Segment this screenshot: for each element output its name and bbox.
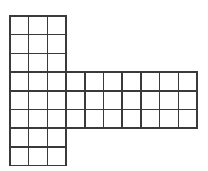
grid-cell bbox=[10, 110, 29, 129]
grid-cell bbox=[10, 147, 29, 166]
grid-cell bbox=[122, 91, 141, 110]
grid-cell bbox=[29, 16, 48, 35]
grid-cell bbox=[85, 91, 104, 110]
grid-cell bbox=[122, 72, 141, 91]
grid-cell bbox=[47, 110, 66, 129]
grid-cell bbox=[66, 110, 85, 129]
grid-cell bbox=[29, 128, 48, 147]
grid-cell bbox=[141, 110, 160, 129]
grid-cell bbox=[47, 147, 66, 166]
grid-cell bbox=[66, 72, 85, 91]
grid-cell bbox=[10, 72, 29, 91]
grid-cell bbox=[10, 35, 29, 54]
grid-cell bbox=[10, 91, 29, 110]
grid-cell bbox=[85, 72, 104, 91]
grid-cell bbox=[47, 53, 66, 72]
grid-cell bbox=[160, 72, 179, 91]
grid-cell bbox=[29, 147, 48, 166]
grid-cell bbox=[160, 91, 179, 110]
figure-canvas bbox=[0, 0, 208, 171]
grid-cell bbox=[47, 72, 66, 91]
grid-cell bbox=[29, 91, 48, 110]
grid-cell bbox=[104, 72, 123, 91]
grid-cell bbox=[122, 110, 141, 129]
grid-cell bbox=[47, 35, 66, 54]
grid-cell bbox=[29, 72, 48, 91]
grid-cell bbox=[47, 128, 66, 147]
grid-cell bbox=[178, 91, 197, 110]
grid-cell bbox=[29, 35, 48, 54]
grid-cell bbox=[104, 91, 123, 110]
grid-diagram bbox=[0, 0, 208, 171]
grid-cell bbox=[29, 53, 48, 72]
grid-cell bbox=[160, 110, 179, 129]
grid-cell bbox=[141, 72, 160, 91]
grid-cell bbox=[10, 53, 29, 72]
grid-cell bbox=[104, 110, 123, 129]
grid-cell bbox=[10, 16, 29, 35]
grid-cell bbox=[178, 110, 197, 129]
grid-cell bbox=[178, 72, 197, 91]
grid-cell bbox=[85, 110, 104, 129]
grid-cell bbox=[66, 91, 85, 110]
grid-cell bbox=[47, 91, 66, 110]
grid-cell bbox=[141, 91, 160, 110]
grid-cell bbox=[47, 16, 66, 35]
grid-cell bbox=[10, 128, 29, 147]
grid-cell bbox=[29, 110, 48, 129]
